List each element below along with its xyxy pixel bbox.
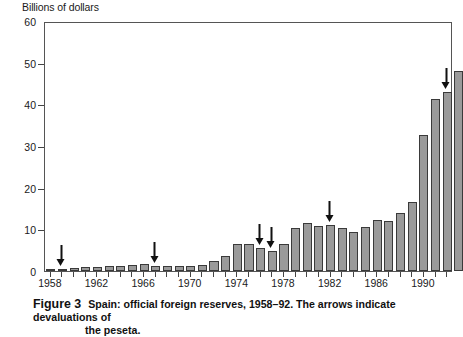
bar-1989 <box>408 202 417 271</box>
bar-1966 <box>140 264 149 271</box>
bar-1969 <box>175 266 184 271</box>
x-tick-label-1966: 1966 <box>131 278 154 289</box>
x-tick-1960 <box>73 272 74 277</box>
bar-1961 <box>81 267 90 271</box>
bar-undefined <box>454 71 463 271</box>
y-tick-label-10: 10 <box>6 225 36 235</box>
x-tick-1983 <box>341 272 342 277</box>
bar-1963 <box>105 266 114 271</box>
y-axis-title: Billions of dollars <box>22 1 99 13</box>
devaluation-arrow-1992 <box>441 68 452 89</box>
bar-1973 <box>221 256 230 271</box>
caption-text: Spain: official foreign reserves, 1958–9… <box>33 298 396 323</box>
x-tick-1987 <box>388 272 389 277</box>
bar-1972 <box>209 261 218 271</box>
x-tick-label-1990: 1990 <box>411 278 434 289</box>
x-tick-1984 <box>353 272 354 277</box>
y-tick-label-50: 50 <box>6 59 36 69</box>
x-tick-label-1974: 1974 <box>225 278 248 289</box>
bar-1968 <box>163 266 172 271</box>
plot-area <box>44 22 452 272</box>
x-tick-1964 <box>120 272 121 277</box>
y-tick-label-60: 60 <box>6 17 36 27</box>
devaluation-arrow-1977 <box>266 227 277 248</box>
arrow-head-1977 <box>267 241 275 248</box>
devaluation-arrow-1967 <box>149 242 160 263</box>
x-tick-1979 <box>295 272 296 277</box>
x-tick-label-1970: 1970 <box>178 278 201 289</box>
bar-series <box>45 23 451 271</box>
caption-text-line2: the peseta. <box>85 324 457 337</box>
x-tick-label-1978: 1978 <box>271 278 294 289</box>
arrow-head-1967 <box>150 256 158 263</box>
bar-1971 <box>198 265 207 271</box>
y-tick-label-40: 40 <box>6 100 36 110</box>
devaluation-arrow-1959 <box>56 245 67 266</box>
x-tick-1959 <box>61 272 62 277</box>
x-tick-label-1986: 1986 <box>365 278 388 289</box>
bar-1984 <box>349 232 358 271</box>
figure-caption: Figure 3Spain: official foreign reserves… <box>33 298 457 337</box>
x-tick-1963 <box>108 272 109 277</box>
bar-1960 <box>70 268 79 271</box>
y-tick-label-20: 20 <box>6 184 36 194</box>
bar-1991 <box>431 99 440 272</box>
y-tick-label-30: 30 <box>6 142 36 152</box>
x-tick-1968 <box>166 272 167 277</box>
bar-1982 <box>326 225 335 271</box>
bar-1986 <box>373 220 382 271</box>
bar-1992 <box>443 92 452 271</box>
bar-1967 <box>151 266 160 271</box>
bar-1979 <box>291 228 300 271</box>
x-tick-1971 <box>201 272 202 277</box>
bar-1964 <box>116 266 125 271</box>
x-tick-1991 <box>435 272 436 277</box>
bar-1987 <box>384 221 393 271</box>
y-tick-label-0: 0 <box>6 267 36 277</box>
bar-1965 <box>128 265 137 271</box>
bar-1985 <box>361 227 370 271</box>
devaluation-arrow-1976 <box>254 224 265 245</box>
x-tick-1967 <box>155 272 156 277</box>
arrow-head-1992 <box>442 82 450 89</box>
devaluation-arrow-1982 <box>324 201 335 222</box>
bar-1958 <box>46 269 55 271</box>
figure-number: Figure 3 <box>33 297 81 311</box>
x-tick-1980 <box>306 272 307 277</box>
bar-1977 <box>268 251 277 271</box>
arrow-head-1959 <box>57 259 65 266</box>
bar-1990 <box>419 135 428 271</box>
x-tick-1972 <box>213 272 214 277</box>
bar-1975 <box>244 244 253 271</box>
bar-1978 <box>279 244 288 272</box>
bar-1988 <box>396 213 405 271</box>
bar-1976 <box>256 248 265 271</box>
x-tick-1976 <box>260 272 261 277</box>
bar-1970 <box>186 266 195 271</box>
x-tick-1988 <box>400 272 401 277</box>
bar-1962 <box>93 267 102 271</box>
arrow-head-1976 <box>255 238 263 245</box>
bar-1983 <box>338 228 347 271</box>
arrow-head-1982 <box>325 215 333 222</box>
x-tick-label-1982: 1982 <box>318 278 341 289</box>
bar-1959 <box>58 269 67 271</box>
bar-1974 <box>233 244 242 271</box>
x-tick-1992 <box>446 272 447 277</box>
bar-1981 <box>314 226 323 271</box>
bar-1980 <box>303 223 312 271</box>
x-tick-label-1962: 1962 <box>85 278 108 289</box>
x-tick-1975 <box>248 272 249 277</box>
x-tick-label-1958: 1958 <box>38 278 61 289</box>
